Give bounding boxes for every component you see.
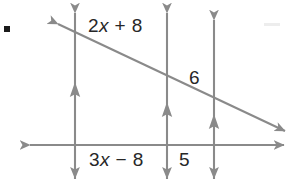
scan-artifact — [264, 23, 280, 26]
label-bottom-constant: − 8 — [110, 149, 144, 170]
transversal-line-stroke — [58, 24, 285, 131]
label-bottom-right-value: 5 — [179, 149, 190, 170]
geometry-figure: 2x + 8 6 3x − 8 5 — [0, 0, 293, 179]
label-top-variable: x — [99, 15, 109, 36]
vertical-line-2 — [162, 13, 172, 179]
label-top-coefficient: 2 — [88, 15, 99, 36]
vertical-line-1 — [70, 13, 80, 179]
label-bottom-right-segment: 5 — [179, 150, 190, 169]
label-top-segment: 2x + 8 — [88, 16, 143, 35]
label-bottom-left-segment: 3x − 8 — [89, 150, 144, 169]
label-bottom-variable: x — [100, 149, 110, 170]
label-top-constant: + 8 — [109, 15, 143, 36]
transversal-line — [58, 24, 285, 131]
problem-bullet — [4, 26, 10, 32]
label-transversal-segment: 6 — [189, 68, 200, 87]
figure-canvas — [0, 0, 293, 179]
label-bottom-coefficient: 3 — [89, 149, 100, 170]
label-transversal-value: 6 — [189, 67, 200, 88]
